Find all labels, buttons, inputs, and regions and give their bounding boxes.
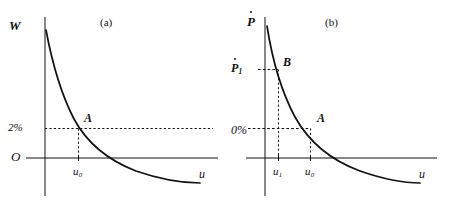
- panel-a-x-tick-u0-base: u: [73, 165, 79, 177]
- panel-b-y-tick-p1-subscript: 1: [238, 67, 242, 76]
- panel-b-reference-lines: [248, 70, 311, 162]
- panel-b-x-axis-label: u: [419, 168, 425, 180]
- panel-a-axes: [26, 17, 218, 196]
- panel-a-wage-curve: [46, 30, 200, 183]
- panel-b-zero-percent-label: 0%: [231, 124, 247, 136]
- panel-a-x-axis-label: u: [199, 168, 205, 180]
- panel-b-x-tick-u0-base: u: [305, 165, 311, 177]
- panel-b-point-a-label: A: [317, 112, 325, 124]
- panel-a-caption: (a): [100, 17, 112, 28]
- panel-b-x-tick-u1-subscript: 1: [279, 171, 283, 178]
- panel-b-point-b-label: B: [283, 56, 291, 68]
- panel-a-y-axis-label: W: [9, 19, 21, 32]
- panel-b-x-tick-u0-subscript: 0: [311, 171, 315, 178]
- panel-a-x-tick-u0: u0: [73, 166, 82, 178]
- panel-a-point-a-label: A: [84, 112, 92, 124]
- phillips-curve-figure: W (a) 2% O A u0 u P (b) P1 B 0% A u1 u0 …: [0, 0, 455, 205]
- panel-b-y-tick-p1: P1: [231, 62, 242, 75]
- panel-b-x-tick-u1-base: u: [273, 165, 279, 177]
- figure-canvas: [0, 0, 455, 205]
- panel-b-caption: (b): [325, 17, 338, 28]
- panel-a-reference-lines: [45, 129, 213, 162]
- panel-a-origin-label: O: [11, 150, 20, 163]
- panel-a-x-tick-u0-subscript: 0: [79, 171, 83, 178]
- panel-b-y-tick-p1-base: P: [231, 62, 238, 74]
- panel-b-y-axis-label: P: [247, 15, 255, 28]
- panel-b-y-axis-label-dot-accent: P: [247, 15, 255, 28]
- panel-a-y-tick-label: 2%: [8, 122, 23, 133]
- panel-b-price-curve: [267, 26, 420, 183]
- panel-b-x-tick-u1: u1: [273, 166, 282, 178]
- panel-b-x-tick-u0: u0: [305, 166, 314, 178]
